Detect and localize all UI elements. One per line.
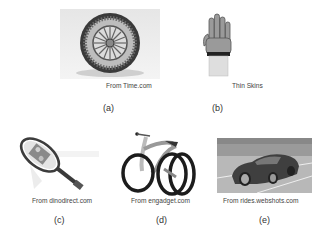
panel-e (217, 138, 312, 193)
panel-c (14, 135, 100, 197)
panel-a (60, 9, 160, 79)
caption-c: From dinodirect.com (32, 197, 92, 204)
label-d: (d) (156, 215, 167, 225)
label-a: (a) (103, 103, 114, 113)
glove-icon (200, 12, 234, 80)
panel-d (120, 129, 200, 199)
caption-e: From rides.webshots.com (223, 197, 298, 204)
label-c: (c) (54, 215, 65, 225)
tire-icon (60, 9, 160, 79)
label-e: (e) (259, 215, 270, 225)
tennis-racket-icon (14, 135, 100, 197)
caption-a: From Time.com (106, 82, 152, 89)
panel-b (200, 12, 234, 80)
bicycle-icon (120, 129, 200, 199)
caption-d: From engadget.com (131, 197, 190, 204)
label-b: (b) (212, 103, 223, 113)
caption-b: Thin Skins (232, 82, 263, 89)
sports-car-icon (217, 138, 312, 193)
